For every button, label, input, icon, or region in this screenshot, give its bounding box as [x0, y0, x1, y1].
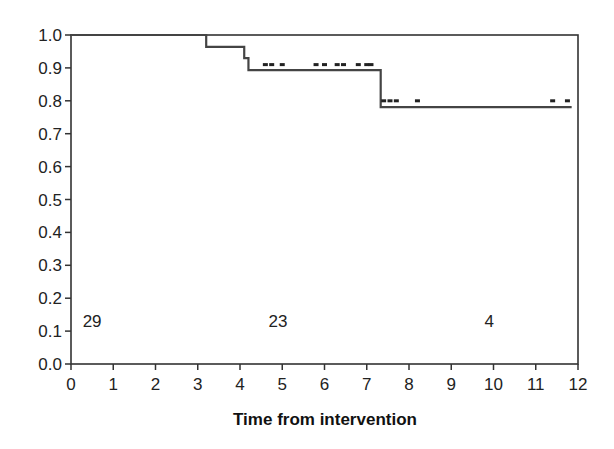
risk-numbers: 29234 — [83, 312, 494, 331]
y-tick-label: 0.2 — [38, 289, 62, 308]
x-tick-label: 7 — [362, 375, 371, 394]
censor-marks — [263, 63, 570, 102]
x-tick-label: 4 — [235, 375, 244, 394]
x-tick-label: 10 — [484, 375, 503, 394]
censor-mark — [269, 63, 274, 66]
y-tick-label: 0.5 — [38, 191, 62, 210]
y-tick-label: 0.0 — [38, 355, 62, 374]
y-tick-label: 0.9 — [38, 59, 62, 78]
y-tick-label: 0.4 — [38, 223, 62, 242]
number-at-risk: 23 — [269, 312, 288, 331]
x-tick-label: 0 — [66, 375, 75, 394]
censor-mark — [368, 63, 373, 66]
censor-mark — [415, 99, 420, 102]
censor-mark — [322, 63, 327, 66]
km-chart: 0.00.10.20.30.40.50.60.70.80.91.0 012345… — [0, 0, 614, 449]
censor-mark — [381, 99, 386, 102]
plot-border — [71, 35, 578, 364]
y-tick-label: 0.3 — [38, 256, 62, 275]
censor-mark — [387, 99, 392, 102]
survival-curve — [71, 35, 572, 107]
censor-mark — [356, 63, 361, 66]
y-tick-label: 0.6 — [38, 158, 62, 177]
x-axis-label: Time from intervention — [233, 410, 417, 429]
x-tick-label: 8 — [404, 375, 413, 394]
x-tick-label: 12 — [569, 375, 588, 394]
censor-mark — [314, 63, 319, 66]
censor-mark — [341, 63, 346, 66]
number-at-risk: 4 — [485, 312, 494, 331]
x-tick-label: 9 — [447, 375, 456, 394]
censor-mark — [263, 63, 268, 66]
y-tick-label: 0.1 — [38, 322, 62, 341]
x-tick-label: 1 — [109, 375, 118, 394]
x-tick-label: 2 — [151, 375, 160, 394]
survival-step-line — [71, 35, 572, 107]
x-axis: 0123456789101112 — [66, 364, 587, 394]
x-tick-label: 5 — [278, 375, 287, 394]
x-tick-label: 11 — [527, 375, 545, 394]
y-tick-label: 0.8 — [38, 92, 62, 111]
y-tick-label: 0.7 — [38, 125, 62, 144]
censor-mark — [335, 63, 340, 66]
x-tick-label: 6 — [320, 375, 329, 394]
y-axis: 0.00.10.20.30.40.50.60.70.80.91.0 — [38, 26, 71, 374]
x-tick-label: 3 — [193, 375, 202, 394]
censor-mark — [394, 99, 399, 102]
censor-mark — [565, 99, 570, 102]
censor-mark — [550, 99, 555, 102]
number-at-risk: 29 — [83, 312, 102, 331]
plot-frame — [71, 35, 578, 364]
censor-mark — [280, 63, 285, 66]
y-tick-label: 1.0 — [38, 26, 62, 45]
